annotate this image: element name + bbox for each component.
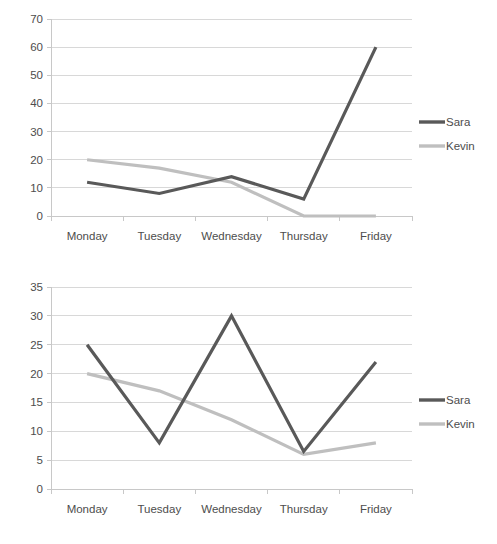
line-chart-top: 010203040506070 MondayTuesdayWednesdayTh… xyxy=(0,0,497,272)
legend-label-kevin: Kevin xyxy=(446,140,475,152)
x-axis-category-label: Monday xyxy=(67,230,108,242)
y-axis-tick-label: 0 xyxy=(37,210,43,222)
y-axis-tick-label: 10 xyxy=(30,425,43,437)
legend-label-kevin: Kevin xyxy=(446,418,475,430)
y-axis-tick-label: 30 xyxy=(30,126,43,138)
y-axis-tick-label: 40 xyxy=(30,97,43,109)
x-axis-category-label: Tuesday xyxy=(137,503,181,515)
y-axis-tick-label: 10 xyxy=(30,182,43,194)
chart-1-ytick-labels: 010203040506070 xyxy=(30,13,43,222)
chart-2-category-labels: MondayTuesdayWednesdayThursdayFriday xyxy=(67,503,392,515)
y-axis-tick-label: 20 xyxy=(30,368,43,380)
chart-2-ytick-labels: 05101520253035 xyxy=(30,281,43,495)
chart-1-axis xyxy=(47,19,412,221)
chart-1-legend: SaraKevin xyxy=(419,116,475,152)
legend-label-sara: Sara xyxy=(446,394,471,406)
chart-2-legend: SaraKevin xyxy=(419,394,475,430)
y-axis-tick-label: 60 xyxy=(30,41,43,53)
x-axis-category-label: Tuesday xyxy=(137,230,181,242)
y-axis-tick-label: 30 xyxy=(30,310,43,322)
x-axis-category-label: Wednesday xyxy=(201,503,262,515)
legend-label-sara: Sara xyxy=(446,116,471,128)
chart-2-series xyxy=(87,316,376,455)
x-axis-category-label: Thursday xyxy=(280,503,328,515)
y-axis-tick-label: 0 xyxy=(37,483,43,495)
chart-2-svg: 05101520253035 MondayTuesdayWednesdayThu… xyxy=(0,272,497,544)
x-axis-category-label: Friday xyxy=(360,503,392,515)
line-chart-bottom: 05101520253035 MondayTuesdayWednesdayThu… xyxy=(0,272,497,544)
y-axis-tick-label: 50 xyxy=(30,69,43,81)
x-axis-category-label: Monday xyxy=(67,503,108,515)
y-axis-tick-label: 25 xyxy=(30,339,43,351)
y-axis-tick-label: 15 xyxy=(30,396,43,408)
x-axis-category-label: Wednesday xyxy=(201,230,262,242)
y-axis-tick-label: 35 xyxy=(30,281,43,293)
chart-1-svg: 010203040506070 MondayTuesdayWednesdayTh… xyxy=(0,0,497,272)
y-axis-tick-label: 5 xyxy=(37,454,43,466)
x-axis-category-label: Friday xyxy=(360,230,392,242)
y-axis-tick-label: 70 xyxy=(30,13,43,25)
series-line-sara xyxy=(87,47,376,199)
chart-1-category-labels: MondayTuesdayWednesdayThursdayFriday xyxy=(67,230,392,242)
y-axis-tick-label: 20 xyxy=(30,154,43,166)
x-axis-category-label: Thursday xyxy=(280,230,328,242)
